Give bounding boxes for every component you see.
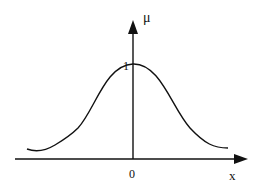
x-axis-arrow-icon bbox=[234, 154, 248, 164]
y-axis-label: μ bbox=[143, 10, 151, 25]
y-axis-arrow-icon bbox=[128, 20, 138, 34]
origin-label: 0 bbox=[129, 167, 135, 181]
bell-curve bbox=[27, 64, 228, 151]
peak-value-label: 1 bbox=[123, 59, 129, 73]
x-axis-label: x bbox=[229, 168, 236, 183]
membership-function-diagram: μ 1 0 x bbox=[0, 0, 261, 189]
